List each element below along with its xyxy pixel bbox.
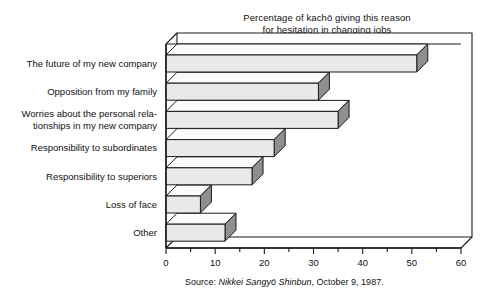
- category-label: Loss of face: [0, 199, 160, 211]
- x-tick-label: 40: [357, 257, 368, 268]
- category-label-line: tionships in my new company: [0, 120, 157, 132]
- x-tick-label: 0: [163, 257, 168, 268]
- bar-3d: [166, 185, 211, 213]
- category-label: Worries about the personal rela-tionship…: [0, 108, 160, 131]
- category-label-line: Other: [0, 227, 157, 239]
- frame-edge-bottom-right: [461, 237, 472, 248]
- bar-3d: [166, 44, 428, 72]
- x-tick-label: 10: [210, 257, 221, 268]
- category-label: The future of my new company: [0, 58, 160, 70]
- x-axis-ticks: 0102030405060: [163, 248, 466, 268]
- category-label-line: Worries about the personal rela-: [0, 108, 157, 120]
- bar-front-face: [166, 83, 318, 100]
- category-label-line: Loss of face: [0, 199, 157, 211]
- bar-top-face: [166, 44, 428, 55]
- bar-front-face: [166, 168, 252, 185]
- category-label-line: The future of my new company: [0, 58, 157, 70]
- bar-front-face: [166, 55, 417, 72]
- source-publication: Nikkei Sangyō Shinbun: [219, 277, 312, 287]
- bar-front-face: [166, 140, 274, 157]
- category-label-line: Opposition from my family: [0, 86, 157, 98]
- bar-3d: [166, 100, 349, 128]
- bar-top-face: [166, 157, 263, 168]
- category-label: Responsibility to superiors: [0, 171, 160, 183]
- x-tick-label: 50: [407, 257, 418, 268]
- bar-top-face: [166, 100, 349, 111]
- category-label: Responsibility to subordinates: [0, 142, 160, 154]
- bar-3d: [166, 72, 329, 100]
- bar-front-face: [166, 196, 200, 213]
- category-label: Other: [0, 227, 160, 239]
- chart-root: Percentage of kachō giving this reason f…: [0, 0, 495, 297]
- bar-3d: [166, 213, 236, 241]
- bar-front-face: [166, 111, 338, 128]
- x-tick-label: 60: [456, 257, 467, 268]
- bar-top-face: [166, 213, 236, 224]
- x-tick-label: 30: [308, 257, 319, 268]
- bar-top-face: [166, 72, 329, 83]
- bar-3d: [166, 157, 263, 185]
- source-prefix: Source:: [185, 277, 219, 287]
- category-label-line: Responsibility to subordinates: [0, 142, 157, 154]
- category-label: Opposition from my family: [0, 86, 160, 98]
- bar-top-face: [166, 129, 285, 140]
- bar-front-face: [166, 224, 225, 241]
- bar-3d: [166, 129, 285, 157]
- category-label-line: Responsibility to superiors: [0, 171, 157, 183]
- source-caption: Source: Nikkei Sangyō Shinbun, October 9…: [185, 277, 384, 287]
- x-tick-label: 20: [259, 257, 270, 268]
- frame-edge-top-left: [166, 33, 177, 44]
- source-date: , October 9, 1987.: [312, 277, 384, 287]
